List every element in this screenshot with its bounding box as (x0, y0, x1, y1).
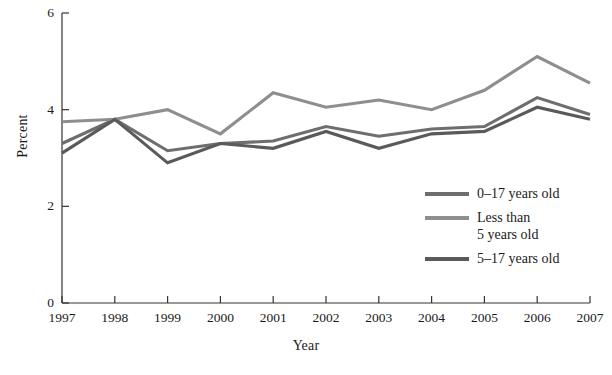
legend-label: Less than 5 years old (477, 209, 538, 243)
x-axis-tick-label: 2000 (190, 311, 250, 325)
x-axis-tick-label: 2002 (296, 311, 356, 325)
y-axis-tick-label: 2 (28, 199, 54, 213)
x-axis-tick-label: 1998 (85, 311, 145, 325)
x-axis-tick-label: 1999 (138, 311, 198, 325)
x-axis-tick-label: 2003 (349, 311, 409, 325)
y-axis-tick-label: 6 (28, 6, 54, 20)
y-axis-tick-label: 0 (28, 296, 54, 310)
x-axis-tick-label: 1997 (32, 311, 92, 325)
chart-legend: 0–17 years oldLess than 5 years old5–17 … (425, 185, 610, 274)
legend-label: 0–17 years old (477, 185, 559, 202)
legend-item: 0–17 years old (425, 185, 610, 202)
legend-color-swatch (425, 192, 469, 196)
x-axis-tick-label: 2001 (243, 311, 303, 325)
x-axis-tick-label: 2006 (507, 311, 567, 325)
legend-label: 5–17 years old (477, 250, 559, 267)
line-chart-figure: Percent Year 0246 1997199819992000200120… (0, 0, 612, 375)
x-axis-tick-label: 2007 (560, 311, 612, 325)
series-line-1 (62, 57, 590, 134)
legend-color-swatch (425, 257, 469, 261)
y-axis-tick-label: 4 (28, 103, 54, 117)
x-axis-title: Year (0, 338, 612, 354)
legend-color-swatch (425, 216, 469, 220)
x-axis-tick-label: 2004 (402, 311, 462, 325)
x-axis-tick-label: 2005 (454, 311, 514, 325)
legend-item: Less than 5 years old (425, 209, 610, 243)
legend-item: 5–17 years old (425, 250, 610, 267)
